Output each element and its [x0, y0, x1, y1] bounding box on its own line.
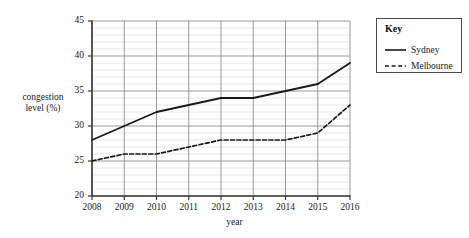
legend-item-sydney[interactable]: Sydney — [385, 40, 440, 53]
line-chart: congestion level (%) year 202530354045 2… — [0, 0, 469, 238]
dashed-line-icon — [385, 62, 406, 70]
y-tick-label: 40 — [58, 50, 84, 60]
legend-title: Key — [385, 23, 402, 34]
x-tick-label: 2009 — [107, 202, 141, 212]
y-axis-title: congestion level (%) — [6, 92, 80, 114]
x-tick-label: 2013 — [236, 202, 270, 212]
y-tick-label: 30 — [58, 120, 84, 130]
legend-box: Key Sydney Melbourne — [376, 18, 462, 73]
legend-label-melbourne: Melbourne — [411, 61, 453, 71]
solid-line-icon — [385, 46, 406, 54]
axis-ticks — [88, 21, 350, 200]
x-tick-label: 2015 — [301, 202, 335, 212]
x-tick-label: 2010 — [140, 202, 174, 212]
x-tick-label: 2008 — [75, 202, 109, 212]
x-tick-label: 2012 — [204, 202, 238, 212]
x-tick-label: 2014 — [269, 202, 303, 212]
x-tick-label: 2016 — [333, 202, 367, 212]
legend-label-sydney: Sydney — [411, 45, 440, 55]
y-tick-label: 35 — [58, 85, 84, 95]
major-vertical-gridlines — [92, 21, 350, 196]
y-axis-title-line2: level (%) — [6, 103, 80, 114]
y-tick-label: 25 — [58, 155, 84, 165]
x-tick-label: 2011 — [172, 202, 206, 212]
x-axis-title: year — [0, 217, 469, 228]
y-tick-label: 45 — [58, 15, 84, 25]
y-tick-label: 20 — [58, 190, 84, 200]
legend-item-melbourne[interactable]: Melbourne — [385, 56, 453, 69]
